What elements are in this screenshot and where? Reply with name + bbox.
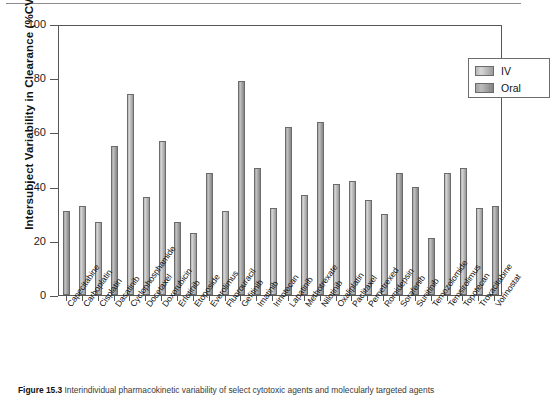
x-axis-tick <box>431 296 432 301</box>
y-axis-tick-label: 40 <box>20 181 46 193</box>
x-axis-tick <box>256 296 257 301</box>
chart-legend: IV Oral <box>468 58 550 98</box>
y-axis-tick-label: 60 <box>20 126 46 138</box>
bar-vorinostat <box>492 206 499 295</box>
bar-pemetrexed <box>365 200 372 295</box>
x-axis-tick <box>129 296 130 301</box>
y-axis-tick-label: 100 <box>20 18 46 30</box>
plot-area: IV Oral <box>58 25 502 296</box>
x-axis-tick <box>82 296 83 301</box>
x-axis-tick <box>447 296 448 301</box>
bar-doxorubicin <box>159 141 166 295</box>
bar-dasatinib <box>111 146 118 295</box>
x-axis-tick <box>177 296 178 301</box>
legend-label-oral: Oral <box>501 82 521 94</box>
bar-paclitaxel <box>349 181 356 295</box>
x-axis-tick <box>462 296 463 301</box>
bar-oxaliplatin <box>333 184 340 295</box>
legend-entry-iv: IV <box>475 64 543 78</box>
figure-caption-label: Figure 15.3 <box>18 385 62 395</box>
bar-etoposide <box>190 233 197 295</box>
bar-sorafenib <box>396 173 403 295</box>
bar-sunitinib <box>412 187 419 295</box>
x-axis-tick <box>66 296 67 301</box>
legend-entry-oral: Oral <box>475 81 543 95</box>
bar-temsirolimus <box>444 173 451 295</box>
bar-series <box>59 26 501 295</box>
x-axis-tick <box>161 296 162 301</box>
x-axis-tick <box>98 296 99 301</box>
y-axis-tick <box>50 242 58 243</box>
x-axis-tick <box>383 296 384 301</box>
y-axis-title: Intersubject Variability in Clearance (%… <box>23 0 35 237</box>
bar-everolimus <box>206 173 213 295</box>
y-axis-tick-label: 0 <box>20 289 46 301</box>
x-axis-tick <box>209 296 210 301</box>
x-axis-tick <box>336 296 337 301</box>
x-axis-tick <box>288 296 289 301</box>
bar-lapatinib <box>285 127 292 295</box>
bar-topotecan <box>460 168 467 295</box>
x-axis-tick <box>225 296 226 301</box>
x-axis-tick <box>367 296 368 301</box>
figure-caption-text: Interindividual pharmacokinetic variabil… <box>65 385 435 395</box>
x-axis-tick <box>494 296 495 301</box>
x-axis-tick <box>240 296 241 301</box>
x-axis-tick <box>399 296 400 301</box>
y-axis-tick <box>50 188 58 189</box>
bar-methotrexate <box>301 195 308 295</box>
bar-temozolomide <box>428 238 435 295</box>
y-axis-tick <box>50 133 58 134</box>
bar-romidepsin <box>381 214 388 295</box>
x-axis-tick <box>478 296 479 301</box>
legend-label-iv: IV <box>501 65 511 77</box>
bar-cyclophosphamide <box>127 94 134 295</box>
y-axis-tick-label: 80 <box>20 72 46 84</box>
x-axis-tick <box>193 296 194 301</box>
bar-docetaxel <box>143 197 150 295</box>
x-axis-tick <box>415 296 416 301</box>
x-axis-tick <box>304 296 305 301</box>
y-axis-tick <box>50 79 58 80</box>
legend-swatch-iv <box>475 66 494 76</box>
x-axis-tick <box>272 296 273 301</box>
y-axis-tick-label: 20 <box>20 235 46 247</box>
bar-gefitinib <box>238 81 245 295</box>
bar-cisplatin <box>95 222 102 295</box>
x-axis-tick <box>320 296 321 301</box>
page-top-rule <box>6 3 521 4</box>
x-axis-tick <box>351 296 352 301</box>
bar-carboplatin <box>79 206 86 295</box>
bar-capecitabine <box>63 211 70 295</box>
bar-fluorouracil <box>222 211 229 295</box>
bar-erlotinib <box>174 222 181 295</box>
bar-nilotinib <box>317 122 324 295</box>
bar-troxacitabine <box>476 208 483 295</box>
figure-caption: Figure 15.3 Interindividual pharmacokine… <box>18 385 518 396</box>
bar-imatinib <box>254 168 261 295</box>
y-axis-tick <box>50 296 58 297</box>
legend-swatch-oral <box>475 83 494 93</box>
x-axis-tick <box>114 296 115 301</box>
x-axis-tick <box>145 296 146 301</box>
bar-irinotecan <box>270 208 277 295</box>
y-axis-tick <box>50 25 58 26</box>
